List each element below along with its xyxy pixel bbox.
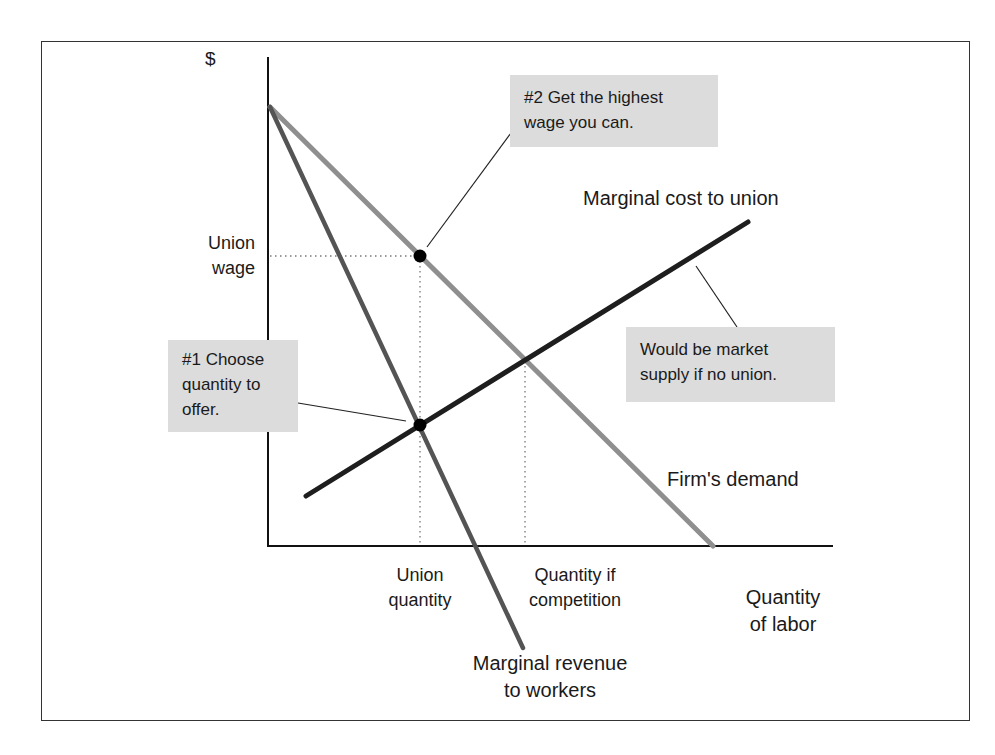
mr-curve-label: Marginal revenue to workers <box>460 650 640 704</box>
note-supply: Would be market supply if no union. <box>626 327 835 402</box>
note-supply-line2: supply if no union. <box>640 362 821 387</box>
union-wage-line1: Union <box>170 231 255 256</box>
competition-quantity-line2: competition <box>510 588 640 613</box>
mr-curve-line2: to workers <box>460 677 640 704</box>
dotted-guides <box>270 256 525 546</box>
mr-curve-line1: Marginal revenue <box>460 650 640 677</box>
union-quantity-line2: quantity <box>370 588 470 613</box>
union-quantity-point-mr-mc-dot <box>414 419 427 432</box>
union-wage-label: Union wage <box>170 231 255 281</box>
mc-curve-label: Marginal cost to union <box>583 186 779 211</box>
union-wage-line2: wage <box>170 256 255 281</box>
note-step2: #2 Get the highest wage you can. <box>510 75 718 147</box>
x-axis-line2: of labor <box>728 611 838 638</box>
demand-curve-label: Firm's demand <box>667 467 799 492</box>
note-step1-line3: offer. <box>182 397 284 422</box>
note-step2-line1: #2 Get the highest <box>524 85 704 110</box>
note2-leader <box>427 133 511 247</box>
note1-leader <box>298 403 406 421</box>
diagram-plot <box>0 0 995 755</box>
note-step1-line2: quantity to <box>182 372 284 397</box>
x-axis-line1: Quantity <box>728 584 838 611</box>
note-supply-line1: Would be market <box>640 337 821 362</box>
union-quantity-label: Union quantity <box>370 563 470 613</box>
note3-leader <box>696 266 737 327</box>
note-step1-line1: #1 Choose <box>182 347 284 372</box>
note-step2-line2: wage you can. <box>524 110 704 135</box>
competition-quantity-label: Quantity if competition <box>510 563 640 613</box>
note-step1: #1 Choose quantity to offer. <box>168 340 298 432</box>
y-axis-label: $ <box>205 46 216 71</box>
x-axis-label: Quantity of labor <box>728 584 838 638</box>
union-quantity-line1: Union <box>370 563 470 588</box>
competition-quantity-line1: Quantity if <box>510 563 640 588</box>
union-wage-point-on-demand-curve-dot <box>414 250 427 263</box>
